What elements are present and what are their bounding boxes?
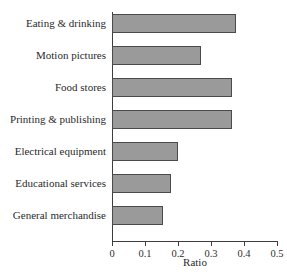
bar-chart: 00.10.20.30.40.5 Eating & drinkingMotion…: [0, 0, 287, 280]
category-label: Motion pictures: [0, 46, 106, 65]
bar-row: [112, 46, 277, 65]
bar-row: [112, 206, 277, 225]
category-label: General merchandise: [0, 206, 106, 225]
category-label: Educational services: [0, 174, 106, 193]
bar: [112, 110, 232, 129]
x-tick: [277, 241, 278, 246]
bar-row: [112, 174, 277, 193]
x-tick: [112, 241, 113, 246]
plot-area: 00.10.20.30.40.5: [112, 12, 277, 241]
bar-row: [112, 78, 277, 97]
x-tick: [244, 241, 245, 246]
bar: [112, 174, 171, 193]
x-axis-title: Ratio: [112, 256, 278, 268]
bar: [112, 142, 178, 161]
x-axis-line: [112, 241, 278, 242]
bar: [112, 206, 163, 225]
bar-row: [112, 14, 277, 33]
category-label: Electrical equipment: [0, 142, 106, 161]
bar-row: [112, 142, 277, 161]
bar: [112, 14, 236, 33]
bar: [112, 46, 201, 65]
x-tick: [178, 241, 179, 246]
x-tick: [211, 241, 212, 246]
category-label: Printing & publishing: [0, 110, 106, 129]
x-tick: [145, 241, 146, 246]
chart-title: [0, 0, 287, 5]
bar: [112, 78, 232, 97]
category-label: Food stores: [0, 78, 106, 97]
bar-row: [112, 110, 277, 129]
category-label: Eating & drinking: [0, 14, 106, 33]
